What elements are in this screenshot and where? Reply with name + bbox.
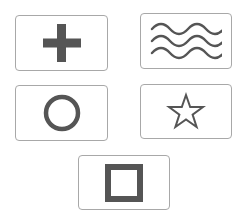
- circle-card[interactable]: [15, 85, 108, 141]
- star-card[interactable]: [140, 84, 232, 139]
- waves-icon: [150, 21, 222, 61]
- plus-icon: [42, 23, 82, 63]
- star-icon: [166, 92, 206, 132]
- square-icon: [104, 163, 144, 203]
- waves-card[interactable]: [140, 13, 232, 69]
- square-card[interactable]: [78, 155, 170, 210]
- circle-icon: [42, 93, 82, 133]
- plus-card[interactable]: [15, 15, 108, 71]
